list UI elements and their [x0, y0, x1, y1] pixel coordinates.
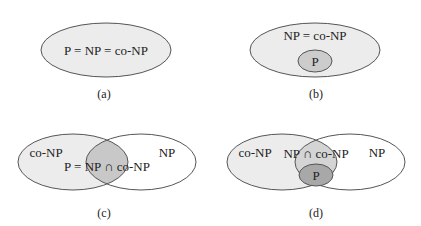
panel-d-left-label: co-NP	[238, 145, 271, 160]
panel-d-caption: (d)	[309, 206, 323, 220]
panel-c-intersection-label: P = NP ∩ co-NP	[64, 159, 150, 174]
complexity-classes-figure: P = NP = co-NP (a) NP = co-NP P (b) co-N…	[0, 0, 421, 226]
panel-d-intersection-label: NP ∩ co-NP	[283, 146, 348, 161]
panel-a-label: P = NP = co-NP	[64, 43, 148, 58]
panel-b: NP = co-NP P (b)	[250, 23, 380, 101]
panel-a-caption: (a)	[97, 87, 110, 101]
panel-c-left-label: co-NP	[29, 145, 62, 160]
panel-b-outer-label: NP = co-NP	[283, 28, 346, 43]
panel-d-inner-label: P	[312, 168, 319, 183]
panel-a: P = NP = co-NP (a)	[41, 23, 171, 101]
panel-c-right-label: NP	[159, 145, 176, 160]
panel-c-caption: (c)	[97, 206, 110, 220]
panel-c: co-NP NP P = NP ∩ co-NP (c)	[18, 134, 196, 220]
panel-b-inner-label: P	[311, 54, 318, 69]
panel-b-caption: (b)	[309, 87, 323, 101]
panel-d-right-label: NP	[369, 145, 386, 160]
panel-d: co-NP NP NP ∩ co-NP P (d)	[227, 134, 405, 220]
